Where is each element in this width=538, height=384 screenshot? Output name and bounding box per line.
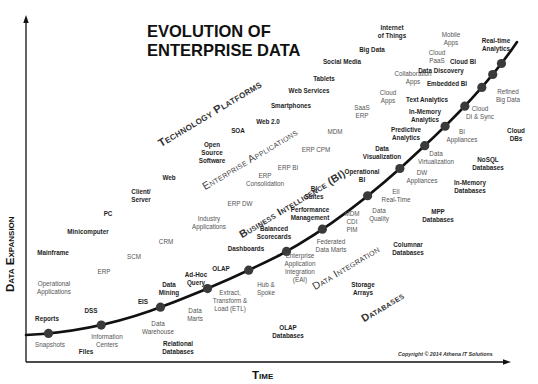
label-mobile-apps: Mobile Apps [442, 31, 461, 47]
label-client-server: Client/ Server [131, 188, 151, 204]
label-dw-appliances: DW Appliances [407, 169, 438, 185]
milestone-dot [477, 83, 486, 92]
milestone-dot [97, 320, 106, 329]
label-predictive-analytics: Predictive Analytics [391, 126, 421, 142]
copyright-notice: Copyright © 2014 Athena IT Solutions [398, 351, 493, 357]
label-industry-applications: Industry Applications [192, 215, 226, 231]
label-federated-data-marts: Federated Data Marts [316, 238, 347, 254]
milestone-dot [497, 59, 506, 68]
label-data-mining: Data Mining [159, 281, 179, 297]
label-scm: SCM [127, 253, 141, 261]
label-dashboards: Dashboards [228, 245, 264, 253]
label-cloud-paas: Cloud PaaS [429, 49, 445, 65]
label-social-media: Social Media [323, 58, 361, 66]
x-axis-label: Time [252, 369, 273, 381]
label-information-centers: Information Centers [91, 333, 123, 349]
label-crm: CRM [159, 238, 173, 246]
label-embedded-bi: Embedded BI [427, 80, 467, 88]
milestone-dot [156, 303, 165, 312]
label-files: Files [79, 348, 93, 356]
label-reports: Reports [35, 315, 59, 323]
milestone-dot [395, 164, 404, 173]
milestone-dot [44, 329, 53, 338]
label-columnar-databases: Columnar Databases [392, 241, 424, 257]
milestone-dot [244, 266, 253, 275]
label-erp: ERP [98, 268, 111, 276]
label-eis: EIS [138, 298, 148, 306]
label-balanced-scorecards: Balanced Scorecards [257, 225, 291, 241]
label-ad-hoc-query: Ad-Hoc Query [185, 271, 207, 287]
label-bi-suites: BI Suites [305, 185, 324, 201]
label-refined-big-data: Refined Big Data [496, 88, 520, 104]
label-in-memory-databases: In-Memory Databases [454, 179, 486, 195]
label-data-virtualization: Data Virtualization [418, 150, 454, 166]
label-mpp-databases: MPP Databases [422, 208, 454, 224]
label-snapshots: Snapshots [35, 341, 65, 349]
milestone-dot [318, 225, 327, 234]
milestone-dot [420, 141, 429, 150]
label-olap-databases: OLAP Databases [272, 324, 304, 340]
label-open-source-software: Open Source Software [199, 141, 226, 165]
label-big-data: Big Data [359, 46, 385, 54]
label-bi-appliances: BI Appliances [447, 128, 478, 144]
label-nosql-databases: NoSQL Databases [472, 156, 504, 172]
label-data-discovery: Data Discovery [418, 67, 464, 75]
label-eii-real-time: EII Real-Time [382, 188, 411, 204]
label-mdm-cdi-pim: MDM CDI PIM [344, 210, 359, 234]
label-relational-databases: Relational Databases [162, 340, 194, 356]
label-erp-cpm: ERP CPM [302, 146, 331, 154]
label-cloud-dbs: Cloud DBs [507, 127, 525, 143]
label-pc: PC [104, 210, 113, 218]
label-in-memory-analytics: In-Memory Analytics [409, 108, 441, 124]
label-text-analytics: Text Analytics [406, 96, 448, 104]
label-cloud-bi: Cloud BI [450, 58, 476, 66]
label-storage-arrays: Storage Arrays [351, 281, 374, 297]
label-erp-bi: ERP BI [278, 164, 299, 172]
label-cloud-di-sync: Cloud DI & Sync [466, 105, 494, 121]
label-erp-consolidation: ERP Consolidation [246, 172, 284, 188]
label-data-marts: Data Marts [187, 307, 203, 323]
label-web-2-0: Web 2.0 [256, 118, 280, 126]
label-soa: SOA [231, 127, 245, 135]
diagram-title: EVOLUTION OF ENTERPRISE DATA [147, 22, 267, 60]
label-internet-of-things: Internet of Things [378, 24, 406, 40]
label-olap: OLAP [212, 265, 230, 273]
label-cloud-apps: Cloud Apps [380, 89, 396, 105]
x-axis-arrow-icon [503, 359, 511, 364]
label-web: Web [162, 174, 175, 182]
label-operational-bi: Operational BI [345, 168, 380, 184]
milestone-dot [488, 70, 497, 79]
label-real-time-analytics: Real-time Analytics [482, 37, 510, 53]
label-tablets: Tablets [313, 75, 335, 83]
label-eai: Enterprise Application Integration (EAI) [285, 252, 316, 284]
label-operational-applications: Operational Applications [37, 280, 71, 296]
label-etl: Extract, Transform & Load (ETL) [213, 289, 247, 313]
label-erp-dw: ERP DW [227, 200, 252, 208]
label-mdm: MDM [327, 128, 342, 136]
label-data-visualization: Data Visualization [363, 145, 401, 161]
milestone-dot [363, 191, 372, 200]
label-dss: DSS [85, 307, 98, 315]
label-hub-and-spoke: Hub & Spoke [257, 281, 275, 297]
label-saas-erp: SaaS ERP [354, 104, 369, 120]
label-mainframe: Mainframe [37, 249, 69, 257]
label-data-quality: Data Quality [369, 207, 389, 223]
label-performance-management: Performance Management [291, 206, 330, 222]
y-axis-arrow-icon [23, 15, 28, 23]
label-data-warehouse: Data Warehouse [142, 320, 174, 336]
label-smartphones: Smartphones [271, 102, 311, 110]
y-axis-label: Data Expansion [4, 216, 16, 292]
label-web-services: Web Services [289, 87, 330, 95]
label-minicomputer: Minicomputer [67, 228, 108, 236]
